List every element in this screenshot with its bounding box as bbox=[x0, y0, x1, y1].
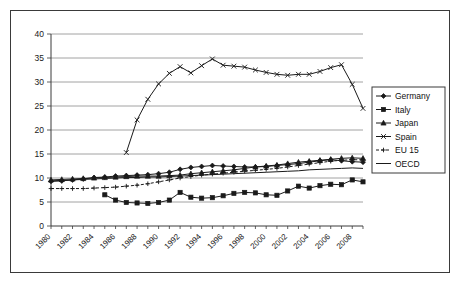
x-tick-label: 2006 bbox=[313, 232, 332, 251]
gridlines bbox=[47, 34, 363, 226]
data-point-marker bbox=[286, 189, 290, 193]
data-point-marker bbox=[350, 82, 355, 87]
y-tick-label: 30 bbox=[35, 77, 45, 87]
data-point-marker bbox=[210, 196, 214, 200]
data-point-marker bbox=[188, 70, 193, 75]
data-point-marker bbox=[361, 180, 365, 184]
series-italy bbox=[103, 178, 365, 206]
data-point-marker bbox=[102, 185, 107, 190]
data-point-marker bbox=[113, 185, 118, 190]
x-tick-label: 1998 bbox=[227, 232, 246, 251]
data-point-marker bbox=[339, 183, 343, 187]
line-chart: 0510152025303540 19801982198419861988199… bbox=[11, 11, 449, 272]
y-tick-label: 25 bbox=[35, 101, 45, 111]
data-point-marker bbox=[199, 164, 204, 169]
data-point-marker bbox=[178, 64, 183, 69]
data-point-marker bbox=[307, 186, 311, 190]
y-tick-label: 10 bbox=[35, 173, 45, 183]
data-point-marker bbox=[49, 186, 54, 191]
y-tick-label: 20 bbox=[35, 125, 45, 135]
y-tick-label: 5 bbox=[39, 197, 44, 207]
legend-label: EU 15 bbox=[395, 145, 419, 155]
data-point-marker bbox=[178, 167, 183, 172]
y-tick-label: 0 bbox=[39, 221, 44, 231]
x-tick-label: 1984 bbox=[77, 232, 96, 251]
x-tick-label: 1996 bbox=[206, 232, 225, 251]
data-point-marker bbox=[296, 184, 300, 188]
data-point-marker bbox=[146, 201, 150, 205]
data-point-marker bbox=[156, 180, 161, 185]
data-point-marker bbox=[135, 118, 140, 123]
chart-legend[interactable]: GermanyItalyJapanSpainEU 15OECD bbox=[372, 87, 445, 173]
data-point-marker bbox=[167, 198, 171, 202]
y-axis-tick-labels: 0510152025303540 bbox=[35, 29, 45, 231]
data-point-marker bbox=[92, 186, 97, 191]
data-point-marker bbox=[199, 63, 204, 68]
data-point-marker bbox=[156, 200, 160, 204]
data-point-marker bbox=[188, 165, 193, 170]
y-tick-label: 15 bbox=[35, 149, 45, 159]
data-point-marker bbox=[350, 178, 354, 182]
y-tick-label: 40 bbox=[35, 29, 45, 39]
x-tick-label: 2004 bbox=[292, 232, 311, 251]
x-tick-label: 1994 bbox=[184, 232, 203, 251]
x-tick-label: 1982 bbox=[55, 232, 74, 251]
data-point-marker bbox=[318, 184, 322, 188]
data-point-marker bbox=[221, 194, 225, 198]
x-axis-tick-labels: 1980198219841986198819901992199419961998… bbox=[33, 232, 354, 251]
data-point-marker bbox=[189, 195, 193, 199]
data-point-marker bbox=[210, 163, 215, 168]
data-point-marker bbox=[124, 200, 128, 204]
data-point-marker bbox=[113, 198, 117, 202]
data-point-marker bbox=[145, 97, 150, 102]
x-tick-label: 1988 bbox=[120, 232, 139, 251]
data-point-marker bbox=[200, 196, 204, 200]
chart-screenshot: 0510152025303540 19801982198419861988199… bbox=[0, 0, 461, 288]
x-tick-label: 2000 bbox=[249, 232, 268, 251]
data-point-marker bbox=[146, 181, 151, 186]
x-tick-label: 1980 bbox=[33, 232, 52, 251]
x-tick-label: 2008 bbox=[335, 232, 354, 251]
x-tick-label: 2002 bbox=[270, 232, 289, 251]
data-point-marker bbox=[103, 193, 107, 197]
y-tick-label: 35 bbox=[35, 53, 45, 63]
data-point-marker bbox=[381, 107, 385, 111]
chart-frame: 0510152025303540 19801982198419861988199… bbox=[10, 10, 450, 273]
data-point-marker bbox=[135, 183, 140, 188]
legend-label: OECD bbox=[395, 159, 420, 169]
x-tick-label: 1986 bbox=[98, 232, 117, 251]
series-path bbox=[51, 168, 363, 181]
data-point-marker bbox=[135, 201, 139, 205]
legend-label: Germany bbox=[395, 91, 431, 101]
data-point-marker bbox=[210, 57, 215, 62]
x-tick-label: 1992 bbox=[163, 232, 182, 251]
data-series bbox=[48, 57, 365, 206]
data-point-marker bbox=[81, 186, 86, 191]
data-point-marker bbox=[264, 193, 268, 197]
x-tick-label: 1990 bbox=[141, 232, 160, 251]
data-point-marker bbox=[243, 190, 247, 194]
data-point-marker bbox=[70, 186, 75, 191]
legend-label: Japan bbox=[395, 118, 418, 128]
data-point-marker bbox=[59, 186, 64, 191]
data-point-marker bbox=[167, 71, 172, 76]
series-path bbox=[51, 160, 363, 189]
data-point-marker bbox=[178, 190, 182, 194]
series-oecd bbox=[51, 168, 363, 181]
data-point-marker bbox=[253, 191, 257, 195]
legend-label: Italy bbox=[395, 105, 411, 115]
data-point-marker bbox=[361, 106, 366, 111]
data-point-marker bbox=[232, 191, 236, 195]
legend-label: Spain bbox=[395, 132, 417, 142]
data-point-marker bbox=[124, 184, 129, 189]
data-point-marker bbox=[275, 193, 279, 197]
data-point-marker bbox=[329, 182, 333, 186]
